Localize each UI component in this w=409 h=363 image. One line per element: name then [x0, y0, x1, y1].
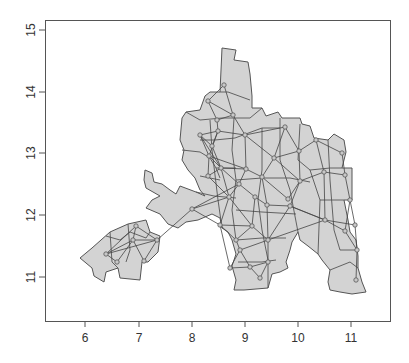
y-tick-label: 12: [24, 208, 38, 222]
y-tick-label: 11: [24, 270, 38, 283]
x-tick-label: 6: [82, 331, 89, 345]
y-tick-label: 13: [24, 146, 38, 160]
main-region-polygon: [144, 48, 366, 294]
west-lobe-polygon: [80, 220, 160, 282]
y-tick-label: 14: [24, 85, 38, 99]
x-tick-labels: 6 7 8 9 10 11: [82, 331, 358, 345]
x-tick-label: 10: [291, 331, 305, 345]
x-tick-label: 11: [345, 331, 358, 345]
map-figure: 6 7 8 9 10 11 11 12 13 14 15: [0, 0, 409, 363]
x-tick-label: 7: [136, 331, 143, 345]
x-tick-label: 9: [242, 331, 249, 345]
y-tick-label: 15: [24, 23, 38, 37]
y-axis: [39, 30, 45, 277]
x-tick-label: 8: [189, 331, 196, 345]
y-tick-labels: 11 12 13 14 15: [24, 23, 38, 283]
